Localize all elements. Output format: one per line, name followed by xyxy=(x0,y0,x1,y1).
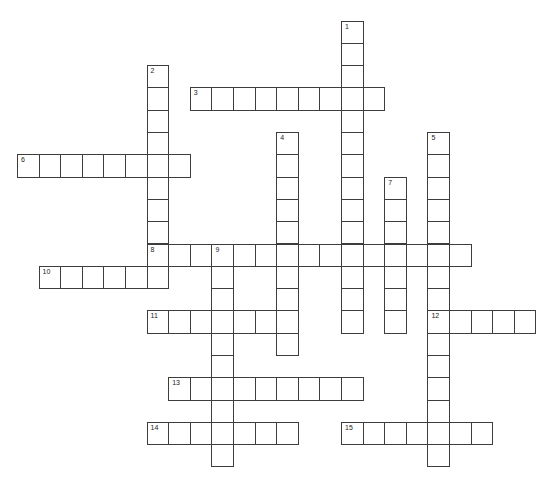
crossword-cell[interactable]: 14 xyxy=(147,422,170,445)
crossword-cell[interactable]: 1 xyxy=(341,21,364,44)
crossword-cell[interactable] xyxy=(211,310,234,333)
crossword-cell[interactable] xyxy=(341,310,364,333)
crossword-cell[interactable] xyxy=(427,199,450,222)
crossword-cell[interactable] xyxy=(125,154,148,177)
crossword-cell[interactable] xyxy=(255,422,278,445)
crossword-cell[interactable] xyxy=(147,87,170,110)
crossword-cell[interactable] xyxy=(255,87,278,110)
crossword-cell[interactable] xyxy=(363,244,386,267)
crossword-cell[interactable] xyxy=(103,154,126,177)
crossword-cell[interactable] xyxy=(276,310,299,333)
crossword-cell[interactable] xyxy=(427,221,450,244)
crossword-cell[interactable] xyxy=(82,266,105,289)
crossword-cell[interactable] xyxy=(471,422,494,445)
crossword-cell[interactable] xyxy=(341,110,364,133)
crossword-cell[interactable] xyxy=(276,87,299,110)
crossword-cell[interactable] xyxy=(427,377,450,400)
crossword-cell[interactable]: 9 xyxy=(211,244,234,267)
crossword-cell[interactable] xyxy=(211,400,234,423)
crossword-cell[interactable] xyxy=(211,444,234,467)
crossword-cell[interactable] xyxy=(276,199,299,222)
crossword-cell[interactable] xyxy=(168,154,191,177)
crossword-cell[interactable] xyxy=(147,110,170,133)
crossword-cell[interactable] xyxy=(384,244,407,267)
crossword-cell[interactable] xyxy=(341,221,364,244)
crossword-cell[interactable] xyxy=(427,444,450,467)
crossword-cell[interactable]: 3 xyxy=(190,87,213,110)
crossword-cell[interactable]: 13 xyxy=(168,377,191,400)
crossword-cell[interactable] xyxy=(60,266,83,289)
crossword-cell[interactable] xyxy=(276,377,299,400)
crossword-cell[interactable] xyxy=(319,377,342,400)
crossword-cell[interactable] xyxy=(276,221,299,244)
crossword-cell[interactable] xyxy=(276,288,299,311)
crossword-cell[interactable] xyxy=(211,288,234,311)
crossword-cell[interactable] xyxy=(233,87,256,110)
crossword-cell[interactable] xyxy=(363,87,386,110)
crossword-cell[interactable] xyxy=(276,154,299,177)
crossword-cell[interactable] xyxy=(147,132,170,155)
crossword-cell[interactable] xyxy=(276,177,299,200)
crossword-cell[interactable] xyxy=(255,377,278,400)
crossword-cell[interactable] xyxy=(427,266,450,289)
crossword-cell[interactable] xyxy=(168,422,191,445)
crossword-cell[interactable] xyxy=(471,310,494,333)
crossword-cell[interactable] xyxy=(492,310,515,333)
crossword-cell[interactable] xyxy=(427,355,450,378)
crossword-cell[interactable] xyxy=(147,266,170,289)
crossword-cell[interactable] xyxy=(341,244,364,267)
crossword-cell[interactable] xyxy=(82,154,105,177)
crossword-cell[interactable] xyxy=(276,422,299,445)
crossword-cell[interactable] xyxy=(211,377,234,400)
crossword-cell[interactable] xyxy=(168,244,191,267)
crossword-cell[interactable] xyxy=(384,221,407,244)
crossword-cell[interactable] xyxy=(319,244,342,267)
crossword-cell[interactable] xyxy=(406,244,429,267)
crossword-cell[interactable] xyxy=(211,333,234,356)
crossword-cell[interactable]: 4 xyxy=(276,132,299,155)
crossword-cell[interactable] xyxy=(384,288,407,311)
crossword-cell[interactable] xyxy=(298,377,321,400)
crossword-cell[interactable] xyxy=(233,377,256,400)
crossword-cell[interactable] xyxy=(449,244,472,267)
crossword-cell[interactable] xyxy=(341,65,364,88)
crossword-cell[interactable]: 12 xyxy=(427,310,450,333)
crossword-cell[interactable] xyxy=(384,199,407,222)
crossword-cell[interactable] xyxy=(233,310,256,333)
crossword-cell[interactable] xyxy=(103,266,126,289)
crossword-cell[interactable] xyxy=(211,422,234,445)
crossword-cell[interactable] xyxy=(60,154,83,177)
crossword-cell[interactable] xyxy=(427,400,450,423)
crossword-cell[interactable] xyxy=(190,244,213,267)
crossword-cell[interactable] xyxy=(427,333,450,356)
crossword-cell[interactable]: 15 xyxy=(341,422,364,445)
crossword-cell[interactable] xyxy=(384,310,407,333)
crossword-cell[interactable] xyxy=(276,244,299,267)
crossword-cell[interactable]: 5 xyxy=(427,132,450,155)
crossword-cell[interactable] xyxy=(190,422,213,445)
crossword-cell[interactable] xyxy=(427,422,450,445)
crossword-cell[interactable] xyxy=(341,266,364,289)
crossword-cell[interactable] xyxy=(147,177,170,200)
crossword-cell[interactable] xyxy=(514,310,537,333)
crossword-cell[interactable] xyxy=(427,244,450,267)
crossword-cell[interactable] xyxy=(39,154,62,177)
crossword-cell[interactable] xyxy=(341,132,364,155)
crossword-cell[interactable] xyxy=(276,266,299,289)
crossword-cell[interactable] xyxy=(427,154,450,177)
crossword-cell[interactable] xyxy=(168,310,191,333)
crossword-cell[interactable] xyxy=(190,310,213,333)
crossword-cell[interactable] xyxy=(341,43,364,66)
crossword-cell[interactable] xyxy=(449,310,472,333)
crossword-cell[interactable]: 10 xyxy=(39,266,62,289)
crossword-cell[interactable] xyxy=(147,199,170,222)
crossword-cell[interactable] xyxy=(255,244,278,267)
crossword-cell[interactable] xyxy=(211,266,234,289)
crossword-cell[interactable] xyxy=(125,266,148,289)
crossword-cell[interactable]: 2 xyxy=(147,65,170,88)
crossword-cell[interactable] xyxy=(233,244,256,267)
crossword-cell[interactable] xyxy=(319,87,342,110)
crossword-cell[interactable] xyxy=(341,177,364,200)
crossword-cell[interactable] xyxy=(211,87,234,110)
crossword-cell[interactable] xyxy=(384,266,407,289)
